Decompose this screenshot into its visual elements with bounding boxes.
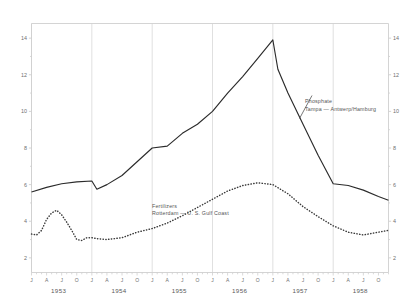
chart-canvas: 2468101214 2468101214 JAJOJAJOJAJOJAJOJA… — [0, 0, 419, 307]
x-axis-month-tick-label: J — [91, 277, 94, 283]
fertilizers-annotation-title: Fertilizers — [152, 203, 177, 209]
y-axis-left-tick-label: 4 — [24, 218, 27, 224]
y-axis-right-labels: 2468101214 — [393, 35, 399, 261]
x-axis-year-label: 1957 — [292, 287, 307, 294]
y-axis-left-tick-label: 2 — [24, 255, 27, 261]
x-axis-month-tick-label: J — [121, 277, 124, 283]
y-axis-right-tick-label: 6 — [393, 182, 396, 188]
y-axis-right-tick-label: 2 — [393, 255, 396, 261]
series-line-phosphate — [32, 40, 389, 200]
x-axis-month-tick-label: J — [30, 277, 33, 283]
y-axis-right-tick-label: 8 — [393, 145, 396, 151]
y-axis-left-tick-label: 12 — [21, 72, 27, 78]
x-axis-month-tick-label: J — [302, 277, 305, 283]
y-axis-left-tick-label: 8 — [24, 145, 27, 151]
fertilizers-annotation-route: Rotterdam — U. S. Gulf Coast — [152, 210, 229, 216]
gridlines — [32, 24, 334, 273]
x-axis-month-tick-label: J — [211, 277, 214, 283]
x-axis-month-tick-label: J — [272, 277, 275, 283]
y-axis-right-tick-label: 12 — [393, 72, 399, 78]
x-axis-month-tick-label: O — [195, 277, 199, 283]
axis-ticks — [29, 38, 391, 275]
x-axis-month-tick-label: A — [45, 277, 49, 283]
chart-figure: 2468101214 2468101214 JAJOJAJOJAJOJAJOJA… — [0, 0, 419, 307]
y-axis-left-tick-label: 6 — [24, 182, 27, 188]
x-axis-month-labels: JAJOJAJOJAJOJAJOJAJOJAJO — [30, 277, 380, 283]
x-axis-month-tick-label: A — [105, 277, 109, 283]
y-axis-right-tick-label: 14 — [393, 35, 399, 41]
x-axis-month-tick-label: O — [316, 277, 320, 283]
x-axis-month-tick-label: A — [166, 277, 170, 283]
x-axis-month-tick-label: J — [151, 277, 154, 283]
x-axis-month-tick-label: O — [75, 277, 79, 283]
y-axis-left-labels: 2468101214 — [21, 35, 27, 261]
x-axis-year-labels: 195319541955195619571958 — [51, 287, 368, 294]
x-axis-month-tick-label: O — [376, 277, 380, 283]
x-axis-month-tick-label: A — [286, 277, 290, 283]
x-axis-year-label: 1955 — [172, 287, 187, 294]
x-axis-month-tick-label: A — [347, 277, 351, 283]
x-axis-month-tick-label: O — [256, 277, 260, 283]
x-axis-month-tick-label: J — [181, 277, 184, 283]
x-axis-month-tick-label: J — [332, 277, 335, 283]
y-axis-right-tick-label: 10 — [393, 108, 399, 114]
x-axis-month-tick-label: J — [241, 277, 244, 283]
x-axis-month-tick-label: A — [226, 277, 230, 283]
x-axis-month-tick-label: O — [135, 277, 139, 283]
x-axis-month-tick-label: J — [60, 277, 63, 283]
phosphate-annotation-route: Tampa — Antwerp/Hamburg — [305, 106, 376, 112]
chart-svg: 2468101214 2468101214 JAJOJAJOJAJOJAJOJA… — [0, 0, 419, 307]
x-axis-month-tick-label: J — [362, 277, 365, 283]
x-axis-year-label: 1956 — [232, 287, 247, 294]
y-axis-left-tick-label: 10 — [21, 108, 27, 114]
x-axis-year-label: 1958 — [353, 287, 368, 294]
y-axis-left-tick-label: 14 — [21, 35, 27, 41]
plot-frame — [32, 24, 389, 273]
y-axis-right-tick-label: 4 — [393, 218, 396, 224]
x-axis-year-label: 1954 — [111, 287, 126, 294]
annotation-layer: PhosphateTampa — Antwerp/HamburgFertiliz… — [152, 96, 376, 217]
phosphate-annotation-title: Phosphate — [305, 98, 332, 104]
x-axis-year-label: 1953 — [51, 287, 66, 294]
